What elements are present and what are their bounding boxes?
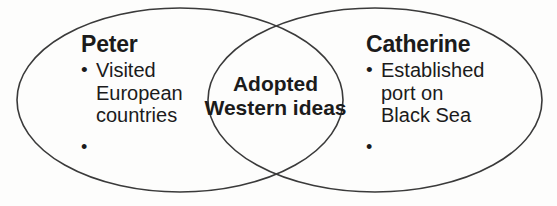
list-item: Established port on Black Sea [366,59,484,127]
list-item: Visited European countries [81,59,183,127]
set-heading-peter: Peter [81,32,183,56]
bullet-list-peter: Visited European countries [81,59,183,146]
venn-set-catherine: Catherine Established port on Black Sea [366,32,484,146]
venn-text-layer: Peter Visited European countries Adopted… [0,0,557,206]
venn-diagram: Peter Visited European countries Adopted… [0,0,557,206]
list-item [81,136,183,146]
bullet-list-catherine: Established port on Black Sea [366,59,484,146]
venn-intersection-label: Adopted Western ideas [197,72,354,119]
list-item [366,136,484,146]
set-heading-catherine: Catherine [366,32,484,56]
venn-set-peter: Peter Visited European countries [81,32,183,146]
